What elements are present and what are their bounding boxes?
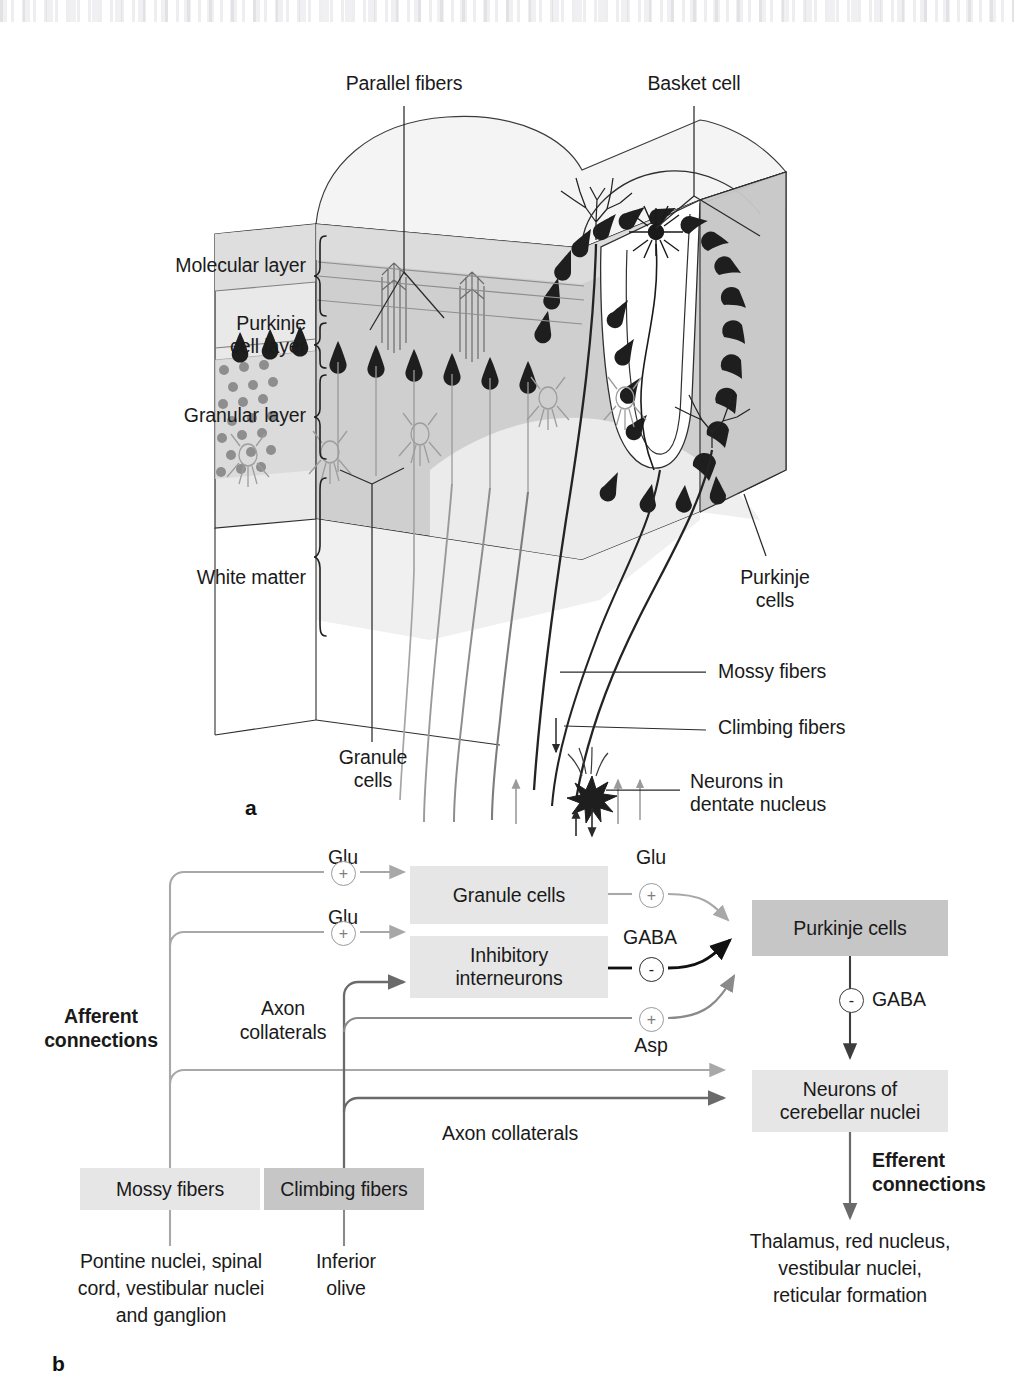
panel-b-letter: b [52, 1352, 65, 1376]
climbing-fiber-trunk [344, 982, 358, 1168]
arrow-granule-to-purkinje [668, 894, 728, 920]
label-axon-collaterals-climbing: Axon collaterals [222, 996, 344, 1044]
label-axon-collaterals-mossy: Axon collaterals [442, 1122, 578, 1145]
label-efferent-targets: Thalamus, red nucleus, vestibular nuclei… [716, 1228, 984, 1309]
sign-plus-mossy-inhibitory: + [331, 921, 356, 946]
box-label-mossy-fibers: Mossy fibers [80, 1168, 260, 1210]
box-label-inhibitory-interneurons: Inhibitory interneurons [410, 936, 608, 998]
sign-plus-granule-purkinje: + [639, 883, 664, 908]
box-label-climbing-fibers: Climbing fibers [264, 1168, 424, 1210]
figure-root: Parallel fibers Basket cell Molecular la… [0, 0, 1014, 1396]
box-label-granule-cells: Granule cells [410, 866, 608, 924]
sign-plus-mossy-granule: + [331, 861, 356, 886]
label-afferent-connections: Afferent connections [26, 1004, 176, 1052]
label-mossy-fiber-origin: Pontine nuclei, spinal cord, vestibular … [46, 1248, 296, 1329]
arrow-mossy-collateral-to-nuclei [170, 1070, 724, 1084]
label-gaba-purkinje-nuclei: GABA [872, 988, 926, 1011]
label-efferent-connections: Efferent connections [872, 1148, 986, 1196]
label-climbing-fiber-origin: Inferior olive [290, 1248, 402, 1302]
label-gaba-inhibitory-purkinje: GABA [598, 926, 702, 949]
sign-minus-inhibitory-purkinje: - [639, 957, 664, 982]
sign-minus-purkinje-nuclei: - [839, 988, 864, 1013]
box-label-cerebellar-nuclei: Neurons of cerebellar nuclei [752, 1070, 948, 1132]
label-glu-granule-purkinje: Glu [610, 846, 692, 869]
sign-plus-climbing-purkinje: + [639, 1007, 664, 1032]
arrow-climbing-collateral-to-nuclei [344, 1098, 724, 1112]
arrow-climbing-to-purkinje [668, 976, 734, 1018]
box-label-purkinje-cells: Purkinje cells [752, 900, 948, 956]
label-asp-climbing-purkinje: Asp [610, 1034, 692, 1057]
